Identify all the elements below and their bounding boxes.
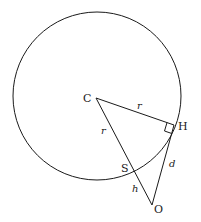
segment-label-HO: d: [169, 158, 175, 169]
geometry-diagram: C H O S r r h d: [0, 0, 201, 222]
circle: [13, 12, 181, 180]
segment-label-CS: r: [101, 125, 107, 136]
segment-label-SO: h: [132, 183, 138, 194]
segment-label-CH: r: [137, 100, 143, 111]
point-label-S: S: [121, 162, 129, 175]
point-label-O: O: [154, 203, 163, 216]
point-label-C: C: [83, 92, 91, 105]
point-label-H: H: [178, 120, 188, 133]
